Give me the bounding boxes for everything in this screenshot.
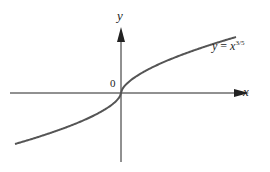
- x-axis-label: x: [243, 84, 249, 100]
- curve-label: y = x3/5: [212, 39, 244, 54]
- curve-label-exponent: 3/5: [235, 39, 244, 47]
- y-axis-arrow-icon: [117, 27, 125, 42]
- function-curve: [15, 37, 236, 144]
- origin-label: 0: [110, 77, 116, 89]
- y-axis-label: y: [117, 8, 123, 24]
- curve-label-eq: =: [220, 39, 227, 53]
- curve-label-lhs: y: [212, 39, 217, 53]
- plot-area: [0, 0, 270, 172]
